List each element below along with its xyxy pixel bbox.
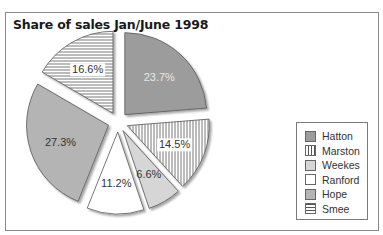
legend-item-hope: Hope [305,187,367,202]
slice-label-marston: 14.5% [159,138,190,150]
swatch-ranford [305,174,316,185]
slice-label-smee: 16.6% [72,63,103,75]
slice-label-hatton: 23.7% [144,71,175,83]
legend-item-ranford: Ranford [305,173,367,188]
swatch-hope [305,189,316,200]
swatch-smee [305,203,316,214]
swatch-hatton [305,131,316,142]
slice-label-ranford: 11.2% [101,177,132,189]
legend-item-marston: Marston [305,144,367,159]
swatch-weekes [305,160,316,171]
legend-item-hatton: Hatton [305,129,367,144]
legend-item-weekes: Weekes [305,158,367,173]
swatch-marston [305,145,316,156]
slice-label-hope: 27.3% [45,136,76,148]
legend-item-smee: Smee [305,202,367,217]
slice-label-weekes: 6.6% [136,168,161,180]
chart-legend: Hatton Marston Weekes Ranford Hope Smee [296,122,368,220]
